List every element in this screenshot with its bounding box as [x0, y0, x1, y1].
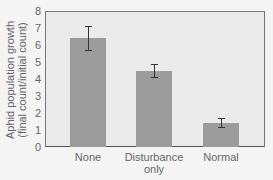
y-tick-label: 0 [29, 141, 41, 153]
error-bar-cap [151, 77, 158, 78]
error-bar-cap [218, 118, 225, 119]
x-tick-label-line: only [114, 163, 194, 175]
y-tick-label: 4 [29, 73, 41, 85]
x-tick-label-line: Normal [181, 151, 261, 163]
y-tick-label: 7 [29, 22, 41, 34]
y-tick-label: 6 [29, 39, 41, 51]
bar-disturbance-only [136, 71, 172, 148]
bar-none [70, 38, 106, 147]
y-axis-label-line1: Aphid population growth [4, 21, 16, 139]
y-tick-label: 2 [29, 107, 41, 119]
error-bar [221, 118, 222, 127]
error-bar [154, 64, 155, 78]
y-axis-label: Aphid population growth (final count/ini… [1, 10, 31, 150]
y-axis-label-line2: (final count/initial count) [16, 21, 28, 139]
y-tick-label: 1 [29, 124, 41, 136]
y-tick-label: 5 [29, 56, 41, 68]
error-bar-cap [85, 26, 92, 27]
error-bar-cap [151, 64, 158, 65]
y-tick-label: 8 [29, 5, 41, 17]
error-bar-cap [85, 50, 92, 51]
x-tick-label: Normal [181, 151, 261, 163]
y-tick-label: 3 [29, 90, 41, 102]
error-bar [88, 26, 89, 50]
error-bar-cap [218, 127, 225, 128]
